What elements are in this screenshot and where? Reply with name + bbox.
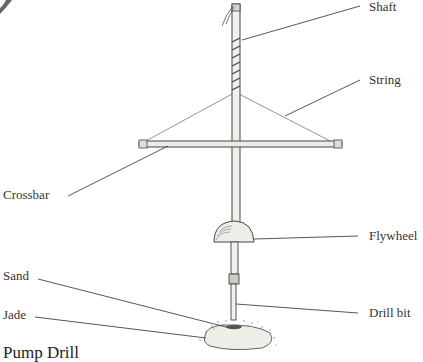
label-sand: Sand <box>3 269 29 282</box>
shaft-leader-line <box>242 6 360 40</box>
flywheel <box>214 221 254 242</box>
diagram-title: Pump Drill <box>3 344 79 361</box>
label-string: String <box>369 73 401 86</box>
label-jade: Jade <box>3 308 26 321</box>
string-leader-line <box>285 80 360 116</box>
label-flywheel: Flywheel <box>369 229 417 242</box>
label-crossbar: Crossbar <box>3 188 49 201</box>
label-drill-bit: Drill bit <box>369 306 411 319</box>
crossbar <box>139 140 342 148</box>
crossbar-leader-line <box>68 146 168 196</box>
jade-leader-line <box>35 317 206 338</box>
corner-ornament <box>0 0 12 14</box>
shaft <box>222 4 240 228</box>
drill-bit-leader-line <box>236 304 358 313</box>
label-shaft: Shaft <box>369 0 396 13</box>
flywheel-leader-line <box>254 236 358 239</box>
drill-bit <box>229 242 239 320</box>
